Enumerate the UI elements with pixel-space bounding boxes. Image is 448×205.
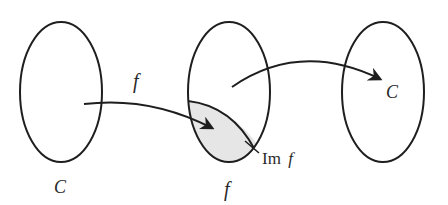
right-set-ellipse [342,22,424,162]
right-inner-label: C [386,82,399,102]
middle-set-label: f [224,178,232,201]
im-label-main: Im [262,149,281,168]
im-f-label: Im f [262,149,295,168]
diagram-canvas: f C f C Im f [0,0,448,205]
left-set-ellipse [20,22,102,162]
im-label-var: f [288,149,295,168]
arrow-middle-to-right [232,61,380,87]
arrow-f-label: f [133,70,141,93]
left-set-label: C [54,177,67,197]
